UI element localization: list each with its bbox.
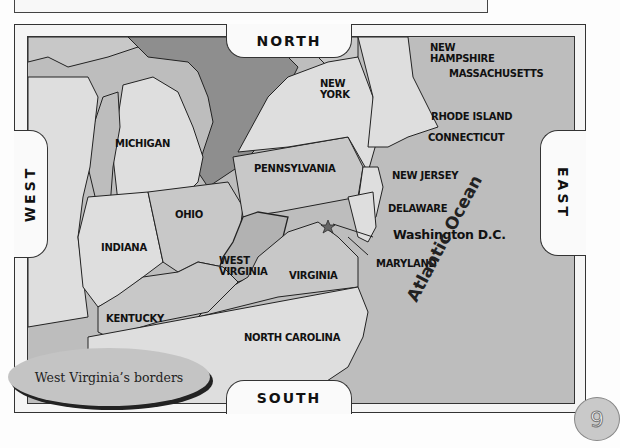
compass-south: SOUTH	[226, 380, 352, 414]
compass-north-label: NORTH	[256, 33, 321, 49]
caption-text: West Virginia’s borders	[35, 370, 184, 385]
label-michigan: MICHIGAN	[115, 138, 170, 149]
label-ohio: OHIO	[175, 209, 203, 220]
label-indiana: INDIANA	[101, 242, 147, 253]
label-pennsylvania: PENNSYLVANIA	[254, 163, 335, 174]
label-new-hampshire-1: NEW	[430, 42, 455, 53]
label-delaware: DELAWARE	[388, 203, 447, 214]
label-kentucky: KENTUCKY	[106, 313, 164, 324]
label-north-carolina: NORTH CAROLINA	[244, 332, 340, 343]
compass-south-label: SOUTH	[257, 390, 322, 406]
label-rhode-island: RHODE ISLAND	[431, 111, 512, 122]
label-massachusetts: MASSACHUSETTS	[449, 68, 543, 79]
label-new-jersey: NEW JERSEY	[392, 170, 458, 181]
label-new-hampshire-2: HAMPSHIRE	[430, 53, 495, 64]
compass-north: NORTH	[226, 24, 352, 58]
compass-west-label: WEST	[23, 166, 39, 223]
label-connecticut: CONNECTICUT	[428, 132, 504, 143]
compass-east-label: EAST	[556, 167, 572, 219]
caption-bubble: West Virginia’s borders	[8, 348, 210, 406]
label-virginia: VIRGINIA	[289, 270, 338, 281]
compass-east: EAST	[540, 130, 586, 256]
label-new-york-1: NEW	[320, 78, 345, 89]
label-west-virginia-2: VIRGINIA	[219, 266, 268, 277]
label-new-york-2: YORK	[320, 89, 350, 100]
page-number: 9	[574, 397, 620, 441]
top-panel	[14, 0, 488, 13]
compass-west: WEST	[14, 130, 48, 258]
label-west-virginia-1: WEST	[219, 255, 250, 266]
